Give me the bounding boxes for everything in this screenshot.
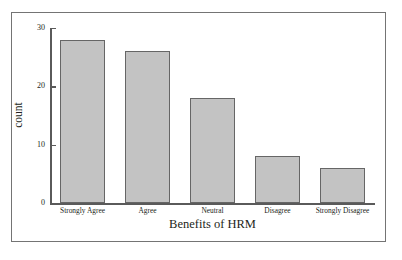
x-axis-title: Benefits of HRM: [50, 218, 375, 231]
x-tick-label: Agree: [138, 207, 156, 214]
y-tick-mark: [52, 28, 56, 29]
y-axis-spine: [50, 28, 52, 203]
x-tick-label: Strongly Disagree: [316, 207, 370, 214]
y-tick-label: 30: [37, 24, 45, 32]
y-tick-mark: [52, 145, 56, 146]
x-tick-label: Neutral: [201, 207, 223, 214]
y-tick-mark: [52, 203, 56, 204]
x-tick-label: Disagree: [264, 207, 290, 214]
figure: count Benefits of HRM 0 10 20 30 Strongl…: [0, 0, 402, 260]
y-tick-label: 20: [37, 82, 45, 90]
x-axis-spine: [50, 203, 375, 205]
y-tick-label: 0: [41, 199, 45, 207]
y-tick-mark: [52, 86, 56, 87]
x-tick-label: Strongly Agree: [60, 207, 105, 214]
y-tick-label: 10: [37, 141, 45, 149]
bar: [60, 40, 106, 203]
plot-area: 0 10 20 30 Strongly AgreeAgreeNeutralDis…: [50, 28, 375, 203]
bar: [255, 156, 301, 203]
y-axis-title: count: [13, 102, 25, 128]
bar: [125, 51, 171, 203]
bar: [320, 168, 366, 203]
bar: [190, 98, 236, 203]
